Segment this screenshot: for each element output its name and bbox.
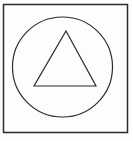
paper-background xyxy=(0,0,133,141)
geometric-figure xyxy=(0,0,133,141)
figure-canvas xyxy=(0,0,133,141)
